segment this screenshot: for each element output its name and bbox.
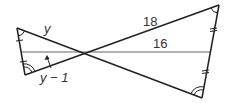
tick-left-upper <box>16 40 23 41</box>
tick-right-upper-1 <box>210 28 217 29</box>
tick-right-lower-2 <box>202 73 209 74</box>
label-y: y <box>43 21 52 36</box>
tick-right-upper-2 <box>210 31 217 32</box>
diagonal-top-left-to-bottom-right <box>17 28 202 98</box>
angle-arc-top-right-single <box>211 8 218 13</box>
tick-left-lower <box>20 61 27 62</box>
pointer-arrow-head <box>45 55 50 60</box>
diagonal-bottom-left-to-top-right <box>25 5 219 75</box>
tick-right-lower-1 <box>202 70 209 71</box>
label-18: 18 <box>143 14 157 29</box>
label-16: 16 <box>153 36 167 51</box>
geometry-diagram: y y − 1 18 16 <box>0 0 228 103</box>
angle-arc-top-left-single <box>19 31 25 36</box>
label-y-minus-1: y − 1 <box>39 70 69 85</box>
